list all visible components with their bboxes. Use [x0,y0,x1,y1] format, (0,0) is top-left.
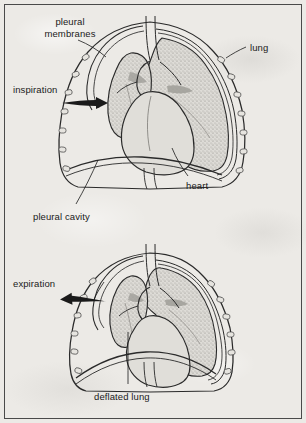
figure-border [4,4,302,419]
figure-canvas: pleural membranes lung inspiration heart… [0,0,306,423]
